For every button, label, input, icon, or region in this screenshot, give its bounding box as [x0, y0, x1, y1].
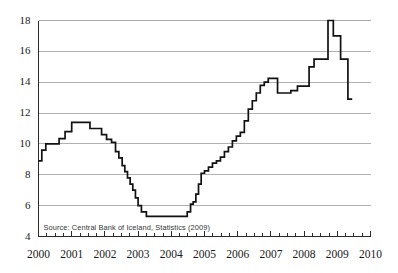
- policy-rate-step-line: [39, 21, 353, 217]
- gridlines-group: [39, 21, 371, 206]
- chart-canvas: [0, 0, 398, 273]
- axis-lines-group: [39, 21, 371, 237]
- source-note: Source: Central Bank of Iceland, Statist…: [44, 223, 210, 232]
- chart-container: 4681012141618 20002001200220032004200520…: [0, 0, 398, 273]
